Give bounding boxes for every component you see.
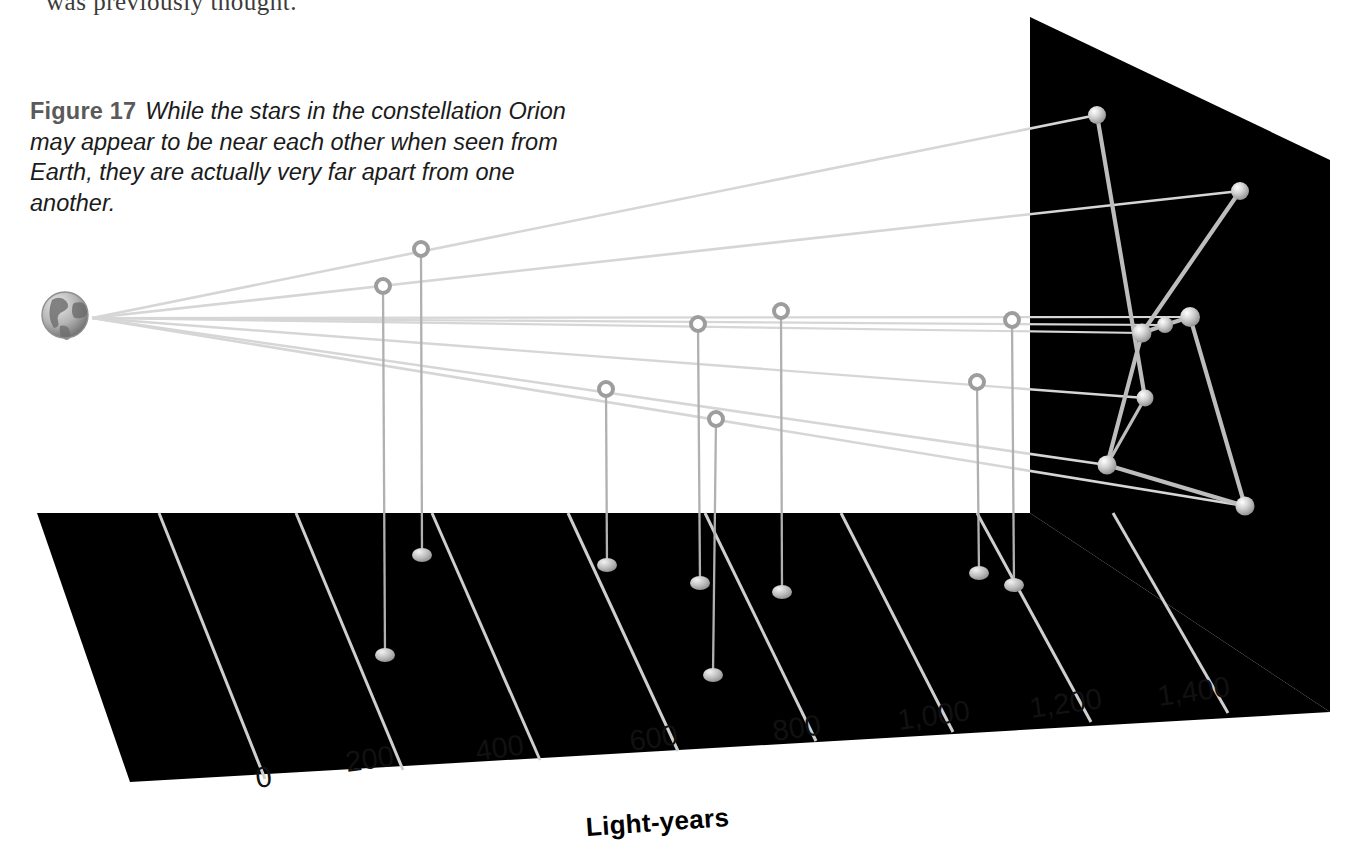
star-marker [1231, 182, 1249, 200]
axis-tick-600: 600 [627, 719, 680, 758]
axis-tick-800: 800 [770, 709, 823, 748]
star-marker [1088, 106, 1106, 124]
axis-tick-400: 400 [473, 729, 526, 768]
star-marker [1137, 390, 1154, 407]
star-marker [1236, 497, 1255, 516]
earth-globe-icon [42, 292, 88, 340]
star-marker [1133, 324, 1152, 343]
star-marker [1157, 317, 1173, 333]
axis-tick-200: 200 [343, 740, 396, 779]
figure-number: Figure 17 [30, 98, 136, 124]
star-marker [1180, 307, 1200, 327]
figure-caption: Figure 17While the stars in the constell… [30, 96, 590, 218]
star-marker [1098, 456, 1117, 475]
